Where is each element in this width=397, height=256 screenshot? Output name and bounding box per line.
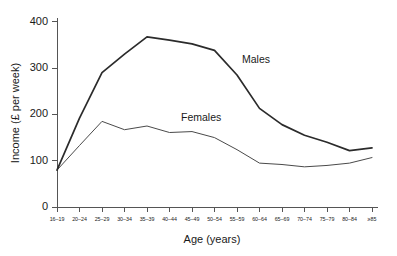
x-tick-label-0: 16–19 — [50, 216, 65, 222]
x-axis-group: 16–1920–2425–2930–3435–3940–4445–4950–54… — [50, 207, 378, 245]
y-axis-group: 400 300 200 100 0 Income (£ per week) — [9, 15, 57, 213]
x-tick-label-13: 80–84 — [342, 216, 357, 222]
y-tick-label-100: 100 — [30, 154, 48, 166]
x-tick-label-8: 55–59 — [230, 216, 245, 222]
x-tick-label-12: 75–79 — [320, 216, 335, 222]
y-tick-label-200: 200 — [30, 107, 48, 119]
x-tick-label-9: 60–64 — [252, 216, 267, 222]
series-label-males: Males — [242, 53, 270, 65]
y-tick-label-400: 400 — [30, 15, 48, 27]
series-group — [57, 37, 372, 170]
y-axis-title: Income (£ per week) — [9, 63, 21, 163]
x-tick-label-11: 70–74 — [297, 216, 312, 222]
x-tick-label-10: 65–69 — [275, 216, 290, 222]
x-tick-label-2: 25–29 — [95, 216, 110, 222]
series-line-males — [57, 37, 372, 170]
chart-svg: 400 300 200 100 0 Income (£ per week) 16… — [0, 0, 397, 256]
x-tick-label-5: 40–44 — [162, 216, 177, 222]
x-tick-label-7: 50–54 — [207, 216, 222, 222]
y-axis-tick-labels: 400 300 200 100 0 — [30, 15, 48, 213]
x-tick-label-1: 20–24 — [72, 216, 87, 222]
y-tick-label-300: 300 — [30, 61, 48, 73]
x-axis-ticks — [57, 207, 372, 212]
income-by-age-line-chart: 400 300 200 100 0 Income (£ per week) 16… — [0, 0, 397, 256]
x-tick-label-6: 45–49 — [185, 216, 200, 222]
x-axis-title: Age (years) — [184, 233, 241, 245]
y-tick-label-0: 0 — [42, 200, 48, 212]
y-axis-ticks — [52, 22, 57, 208]
x-tick-label-14: ≥85 — [368, 216, 377, 222]
x-tick-label-3: 30–34 — [117, 216, 132, 222]
x-axis-tick-labels: 16–1920–2425–2930–3435–3940–4445–4950–54… — [50, 216, 377, 222]
series-label-females: Females — [181, 111, 221, 123]
series-line-females — [57, 121, 372, 170]
x-tick-label-4: 35–39 — [140, 216, 155, 222]
